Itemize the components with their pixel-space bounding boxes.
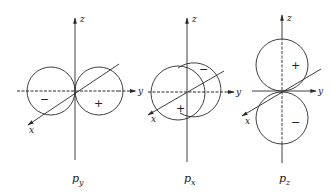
z-axis-label: z (79, 14, 85, 24)
x-axis-label: x (29, 125, 34, 135)
x-axis (148, 71, 224, 115)
panel-pz: z y x + − p z (242, 13, 324, 187)
orbital-label-subscript: z (285, 178, 291, 187)
z-axis-label: z (286, 13, 292, 23)
y-axis-label: y (317, 86, 324, 96)
orbital-label: p (184, 172, 191, 185)
x-axis (242, 69, 321, 116)
lobe-sign: − (40, 93, 49, 106)
p-orbitals-diagram: z y x − + p y z y (0, 0, 332, 195)
lobe-sign: − (291, 116, 300, 129)
panel-px: z y x − + p x (148, 14, 242, 187)
lobe-sign: − (199, 63, 208, 76)
lobe-sign: + (94, 97, 103, 110)
orbital-label-subscript: y (78, 178, 84, 187)
z-axis-label: z (191, 14, 197, 24)
orbital-label-subscript: x (191, 178, 196, 187)
x-axis-label: x (151, 114, 156, 124)
lobe-sign: + (291, 59, 300, 72)
orbital-label: p (279, 172, 286, 185)
lobe-sign: + (176, 102, 185, 115)
x-axis-label: x (245, 116, 250, 126)
panel-py: z y x − + p y (17, 14, 144, 187)
orbital-label: p (72, 172, 79, 185)
y-axis-label: y (137, 86, 144, 96)
y-axis-label: y (235, 87, 242, 97)
